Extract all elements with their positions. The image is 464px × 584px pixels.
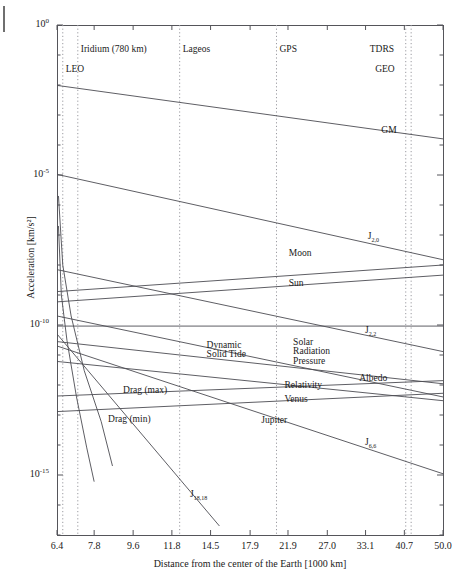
curve-label: Relativity [285, 381, 322, 391]
y-tick-label: 10-10 [9, 317, 49, 329]
x-tick-label: 11.8 [152, 540, 192, 551]
curve-label: Drag (min) [108, 415, 150, 425]
reference-line-label: Iridium (780 km) [81, 44, 147, 54]
reference-line-label: LEO [66, 64, 84, 74]
x-tick-label: 14.5 [191, 540, 231, 551]
figure-page: Acceleration [km/s²] Distance from the c… [0, 0, 464, 584]
curve-label: Solar Radiation Pressure [293, 338, 330, 367]
curve-label: Venus [285, 395, 308, 405]
curve-label: J18,18 [190, 490, 207, 501]
x-tick-label: 7.8 [74, 540, 114, 551]
reference-line-label: GEO [375, 64, 395, 74]
curve-label: Dynamic Solid Tide [207, 341, 246, 360]
curve-label: GM [381, 126, 396, 136]
curve-label: Jupiter [261, 416, 287, 426]
curve-label: Drag (max) [123, 386, 167, 396]
x-tick-label: 40.7 [384, 540, 424, 551]
x-tick-label: 50.0 [423, 540, 463, 551]
y-tick-label: 10-5 [9, 167, 49, 179]
x-tick-label: 17.9 [230, 540, 270, 551]
x-tick-label: 9.6 [113, 540, 153, 551]
curve-label: J2,0 [368, 232, 379, 243]
reference-line-label: Lageos [183, 44, 210, 54]
curve-label: Albedo [359, 374, 387, 384]
x-tick-label: 6.4 [37, 540, 77, 551]
curve-label: Sun [289, 279, 304, 289]
reference-line-label: GPS [279, 44, 296, 54]
x-tick-label: 33.1 [346, 540, 386, 551]
reference-line-label: TDRS [370, 44, 394, 54]
x-tick-label: 21.9 [268, 540, 308, 551]
curve-label: J6,6 [365, 438, 376, 449]
curve-label: J2,2 [365, 326, 376, 337]
y-tick-label: 100 [9, 17, 49, 29]
chart-plot-area [0, 0, 464, 584]
x-tick-label: 27.0 [307, 540, 347, 551]
curve-label: Moon [289, 249, 312, 259]
y-tick-label: 10-15 [9, 467, 49, 479]
